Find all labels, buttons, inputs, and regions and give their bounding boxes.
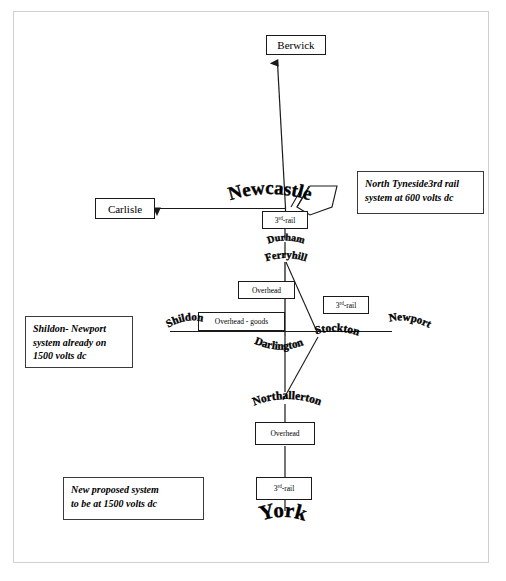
- tech-label-ferryhill-overhead: Overhead: [252, 286, 281, 295]
- tech-box-york-third-rail[interactable]: 3rd-rail: [256, 477, 312, 500]
- tech-label-tyneside-third-rail: 3rd-rail: [275, 216, 296, 225]
- legend-box-north-tyneside[interactable]: North Tyneside3rd rail system at 600 vol…: [357, 171, 484, 214]
- tech-label-stockton-third-rail: 3rd-rail: [336, 301, 357, 310]
- station-label-carlisle: Carlisle: [108, 203, 142, 215]
- legend-box-shildon-newport[interactable]: Shildon- Newport system already on 1500 …: [25, 316, 133, 368]
- tech-box-ferryhill-overhead[interactable]: Overhead: [238, 281, 295, 299]
- tech-label-northallerton-overhead: Overhead: [270, 429, 299, 438]
- tech-box-stockton-third-rail[interactable]: 3rd-rail: [323, 296, 369, 314]
- legend-shildon-newport-line1: Shildon- Newport: [33, 322, 125, 336]
- tech-box-tyneside-third-rail[interactable]: 3rd-rail: [262, 211, 308, 229]
- tech-label-shildon-overhead-goods: Overhead - goods: [215, 317, 268, 326]
- diagram-canvas: Berwick Carlisle 3rd-rail Overhead Overh…: [0, 0, 506, 581]
- station-box-berwick[interactable]: Berwick: [266, 35, 326, 55]
- legend-new-proposed-line1: New proposed system: [71, 483, 196, 497]
- station-box-carlisle[interactable]: Carlisle: [95, 198, 155, 219]
- legend-box-new-proposed[interactable]: New proposed system to be at 1500 volts …: [63, 477, 204, 520]
- legend-new-proposed-line2: to be at 1500 volts dc: [71, 497, 196, 511]
- legend-north-tyneside-line1: North Tyneside3rd rail: [365, 177, 476, 191]
- legend-shildon-newport-line3: 1500 volts dc: [33, 349, 125, 363]
- tech-label-york-third-rail: 3rd-rail: [274, 484, 295, 493]
- legend-shildon-newport-line2: system already on: [33, 336, 125, 350]
- tech-box-shildon-overhead-goods[interactable]: Overhead - goods: [198, 312, 285, 331]
- legend-north-tyneside-line2: system at 600 volts dc: [365, 191, 476, 205]
- station-label-berwick: Berwick: [277, 39, 314, 51]
- tech-box-northallerton-overhead[interactable]: Overhead: [255, 422, 315, 445]
